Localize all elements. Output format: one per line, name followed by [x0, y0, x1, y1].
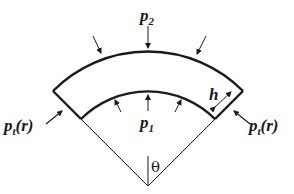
outer-pressure-arrow-icon: [93, 36, 101, 53]
radial-line-left: [81, 119, 148, 186]
tangential-arrow-left-icon: [46, 111, 62, 124]
shell-diagram: p2 p1 h pt(r) pt(r) θ: [0, 0, 294, 194]
tangential-right-label: pt(r): [247, 116, 279, 137]
angle-label: θ: [151, 158, 160, 176]
outer-pressure-label: p2: [138, 6, 155, 27]
inner-pressure-label: p1: [138, 113, 154, 134]
inner-pressure-arrow-icon: [175, 100, 181, 112]
tangential-left-label: pt(r): [2, 116, 34, 137]
outer-pressure-arrow-icon: [197, 36, 206, 54]
thickness-label: h: [209, 85, 218, 104]
tangential-arrow-right-icon: [234, 111, 250, 124]
inner-pressure-arrow-icon: [115, 100, 121, 112]
